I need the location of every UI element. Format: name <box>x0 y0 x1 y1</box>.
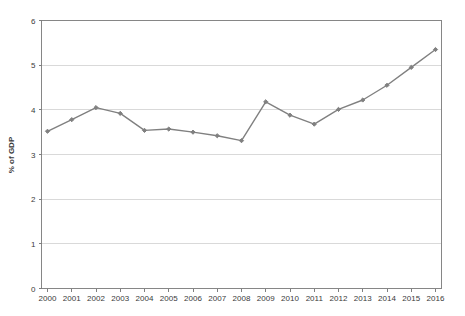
y-tick-label: 0 <box>31 285 36 294</box>
data-point-markers <box>45 47 437 142</box>
x-tick-label: 2014 <box>378 294 396 303</box>
x-tick-label: 2013 <box>354 294 372 303</box>
x-tick-label: 2010 <box>281 294 299 303</box>
x-tick-label: 2011 <box>306 294 324 303</box>
y-tick-label: 3 <box>31 151 36 160</box>
x-tick-label: 2002 <box>87 294 105 303</box>
data-series-gdp <box>48 50 436 141</box>
y-axis-title: % of GDP <box>7 136 16 173</box>
x-tick-label: 2015 <box>402 294 420 303</box>
x-tick-label: 2003 <box>111 294 129 303</box>
x-tick-label: 2000 <box>39 294 57 303</box>
series-line-gdp <box>48 50 436 141</box>
x-tick-label: 2001 <box>63 294 81 303</box>
y-tick-label: 1 <box>31 240 36 249</box>
y-axis-ticks: 0123456 <box>31 17 41 294</box>
x-tick-label: 2004 <box>136 294 154 303</box>
chart-container: 0123456 20002001200220032004200520062007… <box>0 0 465 316</box>
x-tick-label: 2006 <box>184 294 202 303</box>
data-point-2006 <box>191 130 195 134</box>
x-tick-label: 2008 <box>233 294 251 303</box>
x-tick-label: 2016 <box>427 294 445 303</box>
x-tick-label: 2009 <box>257 294 275 303</box>
data-point-2007 <box>215 134 219 138</box>
y-tick-label: 2 <box>31 195 36 204</box>
x-axis-ticks: 2000200120022003200420052006200720082009… <box>39 289 445 303</box>
x-tick-label: 2012 <box>330 294 348 303</box>
y-tick-label: 6 <box>31 17 36 26</box>
gridlines-group <box>42 21 442 244</box>
line-chart: 0123456 20002001200220032004200520062007… <box>0 0 465 316</box>
y-tick-label: 5 <box>31 61 36 70</box>
x-tick-label: 2005 <box>160 294 178 303</box>
data-point-2005 <box>167 127 171 131</box>
x-tick-label: 2007 <box>208 294 226 303</box>
y-tick-label: 4 <box>31 106 36 115</box>
